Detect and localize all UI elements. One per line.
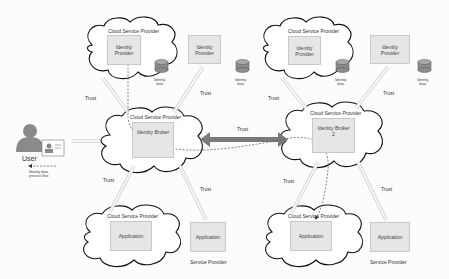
cloud-label-3: Cloud Service Provider (130, 114, 181, 120)
cloud-label-6: Cloud Service Provider (288, 213, 339, 219)
trust-label-broker: Trust (237, 126, 248, 132)
legend-label: Identity data process flow (29, 170, 48, 178)
identity-broker-diagram: Identity Provider Identity Provider Iden… (0, 0, 449, 279)
identity-data-label-4: Identity data (417, 78, 428, 86)
cylinder-icon-2 (236, 60, 249, 73)
identity-provider-2: Identity Provider (188, 35, 221, 64)
user-icon (16, 124, 64, 156)
cloud-label-5: Cloud Service Provider (107, 213, 158, 219)
application-1: Application (110, 221, 152, 251)
identity-provider-3: Identity Provider (288, 36, 321, 65)
identity-provider-4: Identity Provider (370, 35, 410, 64)
trust-label-6: Trust (200, 186, 211, 192)
user-label: User (22, 155, 37, 162)
identity-data-label-2: Identity data (235, 78, 246, 86)
service-provider-caption-1: Service Provider (190, 259, 227, 265)
application-2: Application (190, 222, 226, 252)
identity-data-label-3: Identity data (335, 78, 346, 86)
application-4: Application (370, 222, 410, 252)
trust-label-4: Trust (383, 90, 394, 96)
trust-label-5: Trust (103, 177, 114, 183)
cylinder-icon-4 (418, 60, 431, 73)
identity-broker-1: Identity Broker (132, 122, 174, 158)
trust-label-1: Trust (85, 95, 96, 101)
cloud-label-4: Cloud Service Provider (310, 110, 361, 116)
cloud-label-1: Cloud Service Provider (108, 28, 159, 34)
trust-label-3: Trust (268, 95, 279, 101)
cylinder-icon-1 (155, 60, 168, 73)
identity-broker-2: Identity Broker 2 (312, 118, 355, 153)
identity-data-label-1: Identity data (154, 78, 165, 86)
service-provider-caption-2: Service Provider (370, 259, 407, 265)
cylinder-icon-3 (336, 60, 349, 73)
trust-label-2: Trust (200, 90, 211, 96)
broker-trust-arrow (200, 132, 288, 147)
trust-label-7: Trust (283, 178, 294, 184)
identity-provider-1: Identity Provider (107, 35, 141, 65)
cloud-label-2: Cloud Service Provider (288, 28, 339, 34)
trust-label-8: Trust (381, 186, 392, 192)
application-3: Application (290, 221, 332, 251)
